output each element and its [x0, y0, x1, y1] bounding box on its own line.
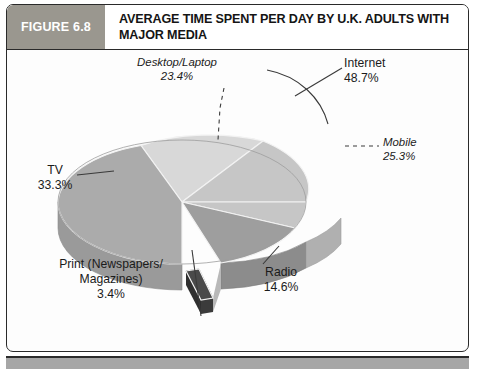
label-mobile-name: Mobile — [383, 136, 417, 148]
label-mobile: Mobile 25.3% — [383, 136, 463, 164]
label-print-line1: Print (Newspapers/ — [59, 257, 163, 271]
label-print-value: 3.4% — [31, 287, 191, 302]
slice-side-mobile-right — [306, 218, 341, 268]
slice-wall-radio-cut — [213, 263, 221, 312]
label-desktop-value: 23.4% — [117, 70, 237, 84]
figure-card: FIGURE 6.8 AVERAGE TIME SPENT PER DAY BY… — [6, 4, 469, 352]
label-mobile-value: 25.3% — [383, 150, 463, 164]
label-radio-value: 14.6% — [234, 280, 328, 295]
figure-footer-bar — [6, 356, 469, 369]
leader-desktop — [218, 88, 224, 140]
label-tv: TV 33.3% — [15, 163, 95, 193]
figure-title: AVERAGE TIME SPENT PER DAY BY U.K. ADULT… — [119, 11, 460, 43]
figure-number-label: FIGURE 6.8 — [21, 20, 91, 34]
figure-number-badge: FIGURE 6.8 — [7, 5, 105, 49]
label-radio-name: Radio — [265, 265, 297, 279]
slice-side-print-front — [201, 298, 213, 314]
label-internet-value: 48.7% — [344, 71, 440, 86]
leader-internet-brace — [267, 70, 328, 124]
label-tv-value: 33.3% — [15, 178, 95, 193]
label-print-line2: Magazines) — [31, 272, 191, 287]
label-radio: Radio 14.6% — [234, 265, 328, 295]
leader-internet-line — [295, 68, 342, 96]
label-desktop-laptop: Desktop/Laptop 23.4% — [117, 56, 237, 84]
pie-chart-area: Desktop/Laptop 23.4% Internet 48.7% Mobi… — [7, 50, 468, 325]
label-print: Print (Newspapers/ Magazines) 3.4% — [31, 257, 191, 302]
figure-header: FIGURE 6.8 AVERAGE TIME SPENT PER DAY BY… — [7, 5, 468, 50]
figure-title-container: AVERAGE TIME SPENT PER DAY BY U.K. ADULT… — [105, 5, 468, 49]
label-tv-name: TV — [47, 163, 63, 177]
label-internet-name: Internet — [344, 56, 385, 70]
label-internet: Internet 48.7% — [344, 56, 440, 86]
label-desktop-name: Desktop/Laptop — [137, 56, 217, 68]
